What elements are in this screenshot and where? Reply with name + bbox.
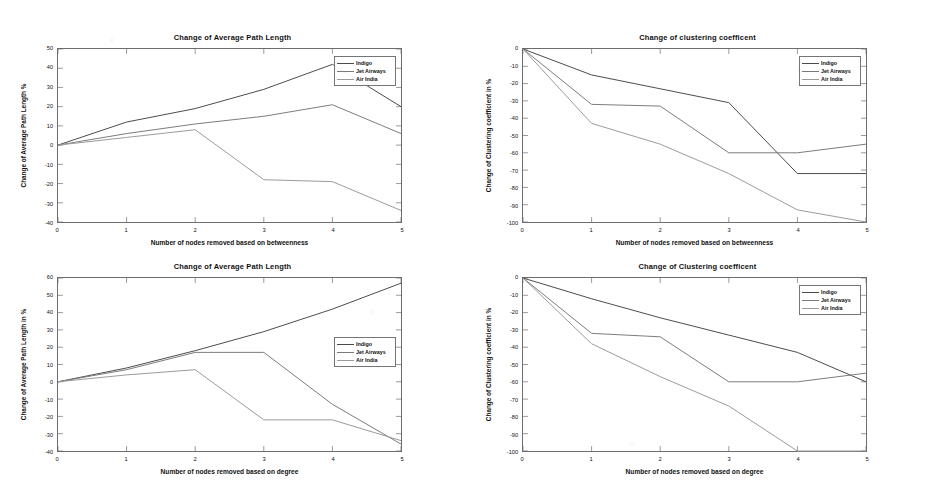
y-axis-tick-label: -20 bbox=[31, 181, 53, 187]
y-axis-tick-label: 10 bbox=[31, 123, 53, 129]
legend-item[interactable]: Air India bbox=[802, 304, 857, 312]
y-axis-tick-label: -70 bbox=[496, 397, 518, 403]
y-axis-tick-label: 0 bbox=[31, 142, 53, 148]
legend-line-swatch-icon bbox=[337, 79, 354, 80]
legend-item[interactable]: Jet Airways bbox=[802, 67, 857, 75]
legend-label: Air India bbox=[356, 356, 378, 364]
x-axis-tick-label: 5 bbox=[400, 227, 403, 233]
legend-line-swatch-icon bbox=[337, 344, 354, 345]
y-axis-tick-label: -80 bbox=[496, 185, 518, 191]
chart-panel-bottom-left: Change of Average Path Length60504030201… bbox=[0, 252, 465, 504]
series-line-air-india bbox=[58, 370, 401, 441]
y-axis-tick-label: -60 bbox=[496, 150, 518, 156]
legend-line-swatch-icon bbox=[802, 71, 819, 72]
y-axis-tick-label: -100 bbox=[496, 449, 518, 455]
legend-label: Indigo bbox=[356, 340, 372, 348]
y-axis-tick-label: -20 bbox=[31, 414, 53, 420]
legend-label: Jet Airways bbox=[821, 296, 851, 304]
legend-line-swatch-icon bbox=[802, 300, 819, 301]
legend-item[interactable]: Air India bbox=[337, 75, 392, 83]
x-axis-tick-label: 0 bbox=[520, 227, 523, 233]
legend-label: Indigo bbox=[821, 59, 837, 67]
legend-item[interactable]: Air India bbox=[802, 75, 857, 83]
legend-label: Indigo bbox=[821, 288, 837, 296]
y-axis-label: Change of Clustering coefficient in % bbox=[485, 48, 492, 223]
y-axis-tick-label: 50 bbox=[31, 292, 53, 298]
y-axis-tick-label: -80 bbox=[496, 414, 518, 420]
legend-item[interactable]: Jet Airways bbox=[337, 67, 392, 75]
chart-legend[interactable]: IndigoJet AirwaysAir India bbox=[334, 56, 396, 86]
series-line-indigo bbox=[58, 283, 401, 382]
x-axis-tick-label: 1 bbox=[124, 456, 127, 462]
x-axis-tick-label: 0 bbox=[55, 456, 58, 462]
chart-panel-bottom-right: Change of Clustering coefficent0-10-20-3… bbox=[465, 252, 930, 504]
x-axis-tick-label: 1 bbox=[124, 227, 127, 233]
y-axis-tick-label: 0 bbox=[496, 274, 518, 280]
legend-line-swatch-icon bbox=[337, 71, 354, 72]
y-axis-tick-label: -20 bbox=[496, 309, 518, 315]
y-axis-tick-label: -30 bbox=[496, 98, 518, 104]
legend-item[interactable]: Indigo bbox=[802, 288, 857, 296]
x-axis-tick-label: 5 bbox=[400, 456, 403, 462]
chart-legend[interactable]: IndigoJet AirwaysAir India bbox=[799, 56, 861, 86]
legend-item[interactable]: Jet Airways bbox=[337, 348, 392, 356]
chart-legend[interactable]: IndigoJet AirwaysAir India bbox=[334, 337, 396, 367]
x-axis-tick-label: 4 bbox=[796, 456, 799, 462]
legend-item[interactable]: Air India bbox=[337, 356, 392, 364]
chart-panel-top-left: Change of Average Path Length50403020100… bbox=[0, 0, 465, 252]
legend-line-swatch-icon bbox=[802, 292, 819, 293]
x-axis-tick-label: 4 bbox=[331, 456, 334, 462]
y-axis-tick-label: 30 bbox=[31, 84, 53, 90]
legend-label: Jet Airways bbox=[356, 348, 386, 356]
x-axis-label: Number of nodes removed based on between… bbox=[57, 239, 402, 246]
y-axis-tick-label: -40 bbox=[31, 449, 53, 455]
y-axis-tick-label: 0 bbox=[496, 45, 518, 51]
chart-title: Change of Clustering coefficent bbox=[465, 262, 930, 271]
y-axis-tick-label: -40 bbox=[31, 220, 53, 226]
y-axis-tick-label: 50 bbox=[31, 45, 53, 51]
legend-line-swatch-icon bbox=[802, 308, 819, 309]
x-axis-tick-label: 5 bbox=[865, 456, 868, 462]
y-axis-tick-label: -40 bbox=[496, 344, 518, 350]
x-axis-tick-label: 3 bbox=[262, 227, 265, 233]
x-axis-tick-label: 1 bbox=[589, 456, 592, 462]
x-axis-tick-label: 4 bbox=[331, 227, 334, 233]
legend-line-swatch-icon bbox=[337, 360, 354, 361]
chart-panel-top-right: Change of clustering coefficent0-10-20-3… bbox=[465, 0, 930, 252]
legend-label: Jet Airways bbox=[356, 67, 386, 75]
legend-label: Indigo bbox=[356, 59, 372, 67]
chart-title: Change of Average Path Length bbox=[0, 33, 465, 42]
x-axis-tick-label: 4 bbox=[796, 227, 799, 233]
y-axis-tick-label: -30 bbox=[496, 327, 518, 333]
legend-line-swatch-icon bbox=[802, 79, 819, 80]
legend-item[interactable]: Indigo bbox=[802, 59, 857, 67]
y-axis-tick-label: -10 bbox=[31, 162, 53, 168]
x-axis-tick-label: 2 bbox=[193, 227, 196, 233]
x-axis-tick-label: 3 bbox=[727, 227, 730, 233]
x-axis-label: Number of nodes removed based on between… bbox=[522, 239, 867, 246]
x-axis-label: Number of nodes removed based on degree bbox=[57, 468, 402, 475]
series-line-air-india bbox=[58, 130, 401, 211]
y-axis-tick-label: 10 bbox=[31, 362, 53, 368]
x-axis-tick-label: 3 bbox=[262, 456, 265, 462]
x-axis-tick-label: 3 bbox=[727, 456, 730, 462]
chart-legend[interactable]: IndigoJet AirwaysAir India bbox=[799, 285, 861, 315]
legend-line-swatch-icon bbox=[802, 63, 819, 64]
y-axis-tick-label: -90 bbox=[496, 203, 518, 209]
y-axis-tick-label: 60 bbox=[31, 274, 53, 280]
y-axis-tick-label: -50 bbox=[496, 362, 518, 368]
y-axis-tick-label: -100 bbox=[496, 220, 518, 226]
y-axis-tick-label: 0 bbox=[31, 379, 53, 385]
legend-item[interactable]: Indigo bbox=[337, 59, 392, 67]
legend-item[interactable]: Indigo bbox=[337, 340, 392, 348]
y-axis-tick-label: -10 bbox=[496, 292, 518, 298]
legend-item[interactable]: Jet Airways bbox=[802, 296, 857, 304]
legend-line-swatch-icon bbox=[337, 352, 354, 353]
y-axis-tick-label: -10 bbox=[496, 63, 518, 69]
y-axis-tick-label: -60 bbox=[496, 379, 518, 385]
x-axis-tick-label: 1 bbox=[589, 227, 592, 233]
y-axis-tick-label: 20 bbox=[31, 344, 53, 350]
y-axis-tick-label: -50 bbox=[496, 133, 518, 139]
y-axis-label: Change of Clustering coefficient in % bbox=[485, 277, 492, 452]
y-axis-label: Change of Average Path Length in % bbox=[20, 277, 27, 452]
